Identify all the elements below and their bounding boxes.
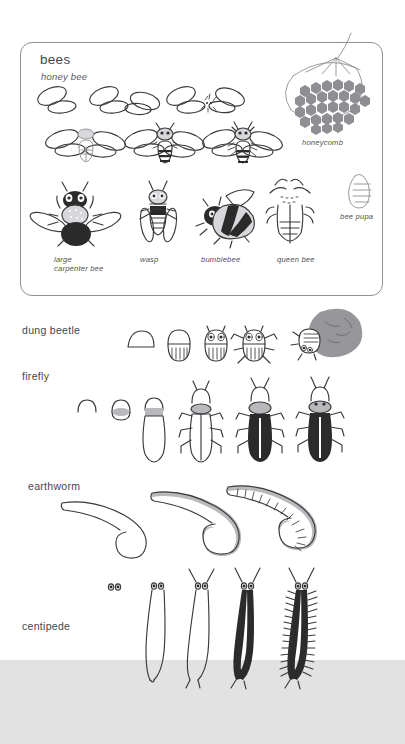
drawing-tutorial-page: bees honey bee — [0, 0, 405, 744]
section-label-firefly: firefly — [22, 370, 49, 382]
bee-step-4-body — [43, 126, 127, 162]
earthworm-step-2 — [151, 492, 241, 556]
bee-step-1-wings — [35, 83, 76, 114]
caption-bee-pupa: bee pupa — [340, 212, 400, 221]
centipede-eyes-step — [108, 584, 120, 590]
centipede-step-5-legs — [280, 568, 317, 689]
dung-beetle-step-4 — [231, 326, 277, 363]
dung-beetle-step-3 — [205, 326, 227, 361]
honey-bee-step-drawings — [0, 0, 405, 744]
centipede-step-4 — [231, 568, 260, 689]
bee-step-2-wings — [87, 83, 162, 115]
section-label-earthworm: earthworm — [28, 480, 80, 492]
caption-large-carpenter-bee: large carpenter bee — [54, 255, 134, 274]
bee-step-3-wings-with-body-hint — [164, 83, 247, 114]
wasp-drawing — [138, 181, 179, 243]
honeycomb-drawing — [285, 33, 370, 135]
dung-beetle-with-ball — [291, 309, 362, 360]
caption-honeycomb: honeycomb — [302, 138, 382, 147]
bee-step-6-body-hairy — [200, 122, 284, 163]
centipede-step-3 — [186, 569, 214, 688]
firefly-step-3 — [143, 398, 165, 462]
bumblebee-drawing — [196, 190, 254, 248]
firefly-step-4 — [179, 381, 223, 462]
section-label-centipede: centipede — [22, 620, 70, 632]
firefly-step-2 — [112, 400, 130, 420]
firefly-step-5 — [236, 378, 284, 462]
dung-beetle-step-2 — [168, 330, 190, 361]
firefly-step-1 — [78, 400, 96, 412]
bee-step-5-body-striped — [122, 123, 206, 163]
earthworm-step-1 — [61, 502, 146, 558]
queen-bee-drawing — [266, 179, 314, 243]
large-carpenter-bee-drawing — [28, 182, 123, 246]
dung-beetle-step-1 — [128, 331, 154, 347]
firefly-step-6 — [296, 377, 344, 462]
centipede-step-2 — [146, 583, 165, 682]
caption-queen-bee: queen bee — [277, 255, 347, 264]
caption-wasp: wasp — [140, 255, 200, 264]
bee-pupa-drawing — [349, 175, 371, 209]
section-label-dung-beetle: dung beetle — [22, 324, 80, 336]
caption-bumblebee: bumblebee — [201, 255, 271, 264]
